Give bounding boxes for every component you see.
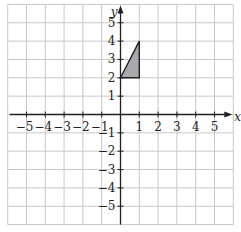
x-tick-label: 5 xyxy=(211,120,219,134)
y-tick-label: −4 xyxy=(98,181,116,195)
x-tick-label: 4 xyxy=(192,120,200,134)
y-tick-label: −1 xyxy=(98,126,116,140)
x-tick-label: 2 xyxy=(154,120,162,134)
y-tick-label: 2 xyxy=(108,71,116,85)
y-tick-label: −2 xyxy=(98,144,116,158)
x-axis-arrow-icon xyxy=(224,112,232,118)
x-tick-label: −3 xyxy=(53,120,71,134)
x-tick-label: −5 xyxy=(16,120,34,134)
x-tick-label: 3 xyxy=(173,120,181,134)
tick-labels: −5−4−3−2−11234554321−1−2−3−4−5xy xyxy=(16,5,241,213)
y-tick-label: 4 xyxy=(108,34,116,48)
y-tick-label: 3 xyxy=(108,52,116,66)
x-axis-label: x xyxy=(234,110,241,124)
y-tick-label: −5 xyxy=(98,199,116,213)
coordinate-plane: −5−4−3−2−11234554321−1−2−3−4−5xy xyxy=(0,0,241,232)
y-axis-arrow-icon xyxy=(118,5,124,13)
y-tick-label: −3 xyxy=(98,163,116,177)
y-tick-label: 1 xyxy=(108,89,116,103)
y-axis-label: y xyxy=(110,5,118,19)
x-tick-label: −4 xyxy=(34,120,52,134)
x-tick-label: 1 xyxy=(135,120,143,134)
axes xyxy=(10,5,233,224)
x-tick-label: −2 xyxy=(72,120,90,134)
